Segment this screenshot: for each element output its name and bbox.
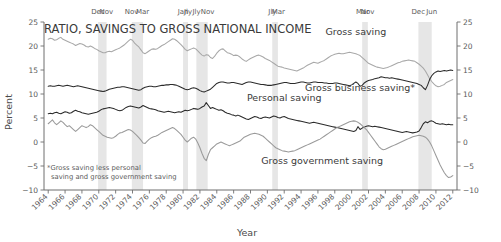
footnote-line-1: *Gross saving less personal <box>47 164 141 172</box>
recession-month-label: Jly <box>191 8 200 16</box>
footnote-line-2: saving and gross government saving <box>51 173 177 181</box>
recession-month-label: Nov <box>201 8 215 16</box>
y-tick-label-right: −5 <box>463 162 474 171</box>
recession-month-label: Nov <box>361 8 375 16</box>
y-tick-label-right: 15 <box>463 66 473 75</box>
y-tick-label-right: −10 <box>463 186 479 195</box>
y-tick-label-left: −10 <box>22 186 38 195</box>
recession-month-label: Jun <box>425 8 437 16</box>
y-tick-label-left: 10 <box>28 90 38 99</box>
y-tick-label-right: 20 <box>463 42 473 51</box>
x-axis-title: Year <box>236 227 257 238</box>
recession-month-label: Dec <box>411 8 425 16</box>
y-tick-label-right: 5 <box>463 114 468 123</box>
y-axis-title: Percent <box>3 94 14 130</box>
y-tick-label-left: 5 <box>33 114 38 123</box>
y-tick-label-right: 0 <box>463 138 468 147</box>
y-tick-label-right: 10 <box>463 90 473 99</box>
chart-container: DecNovNovMarJanJlyJlyNovJlyMarMarNovDecJ… <box>0 0 501 242</box>
series-label: Personal saving <box>247 92 322 103</box>
recession-month-label: Mar <box>136 8 149 16</box>
y-tick-label-right: 25 <box>463 18 473 27</box>
y-tick-label-left: −5 <box>27 162 38 171</box>
y-tick-label-left: 0 <box>33 138 38 147</box>
recession-band <box>418 22 431 190</box>
chart-title: RATIO, SAVINGS TO GROSS NATIONAL INCOME <box>44 22 311 36</box>
recession-month-label: Mar <box>272 8 285 16</box>
series-label: Gross business saving* <box>305 82 415 93</box>
series-label: Gross saving <box>325 26 386 37</box>
y-tick-label-left: 25 <box>28 18 38 27</box>
recession-band <box>196 22 207 190</box>
series-label: Gross government saving <box>261 155 383 166</box>
recession-month-label: Nov <box>100 8 114 16</box>
y-tick-label-left: 20 <box>28 42 38 51</box>
y-tick-label-left: 15 <box>28 66 38 75</box>
savings-ratio-line-chart: DecNovNovMarJanJlyJlyNovJlyMarMarNovDecJ… <box>0 0 501 242</box>
recession-month-label: Jly <box>183 8 192 16</box>
